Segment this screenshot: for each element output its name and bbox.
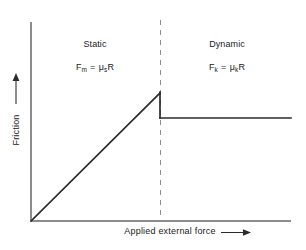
applied-force-axis-arrow-icon xyxy=(221,229,251,236)
friction-vs-applied-force-chart: Static Fm = μsR Dynamic Fk = μkR Frictio… xyxy=(0,0,306,250)
friction-axis-arrow-icon xyxy=(13,73,20,104)
chart-canvas xyxy=(0,0,306,250)
static-friction-ramp xyxy=(31,93,160,221)
